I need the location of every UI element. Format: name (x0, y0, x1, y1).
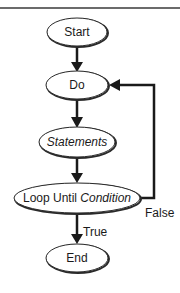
node-statements-label: Statements (47, 135, 108, 149)
node-loop-until: Loop Until Condition (14, 183, 141, 214)
edge-loop-to-do-feedback (109, 79, 154, 198)
edge-label-true: True (83, 225, 108, 239)
flowchart-diagram: True False Start Do Statements Loop Unti… (0, 0, 180, 293)
edge-loop-to-end (71, 213, 83, 244)
edge-start-to-do (71, 46, 83, 72)
node-start: Start (47, 18, 108, 47)
node-statements: Statements (39, 127, 116, 158)
node-loop-until-label: Loop Until Condition (23, 191, 131, 205)
node-loop-until-condition: Condition (80, 191, 131, 205)
node-do: Do (46, 71, 109, 100)
node-start-label: Start (64, 25, 90, 39)
node-end: End (46, 244, 109, 273)
edge-statements-to-loop (71, 157, 83, 183)
edge-label-false: False (145, 206, 175, 220)
node-loop-until-keyword: Loop Until (23, 191, 80, 205)
node-end-label: End (66, 251, 87, 265)
node-do-label: Do (69, 78, 85, 92)
edge-do-to-statements (71, 99, 83, 128)
